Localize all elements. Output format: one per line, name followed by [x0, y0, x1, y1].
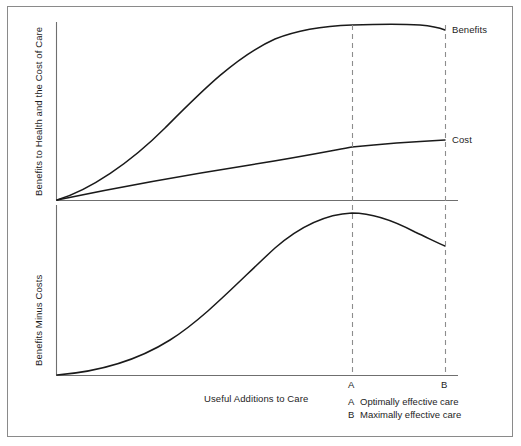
x-axis-title: Useful Additions to Care	[204, 393, 308, 404]
key-text-b: Maximally effective care	[360, 409, 461, 422]
x-tick-label-b: B	[441, 379, 447, 390]
cost-series-label: Cost	[452, 134, 472, 145]
key-text-a: Optimally effective care	[360, 396, 459, 409]
key-row-b: B Maximally effective care	[348, 409, 461, 422]
key-row-a: A Optimally effective care	[348, 396, 461, 409]
top-panel-y-axis-title: Benefits to Health and the Cost of Care	[33, 27, 44, 196]
benefits-minus-costs-curve	[57, 213, 445, 375]
figure-container: Benefits to Health and the Cost of Care …	[0, 0, 521, 446]
chart-key: A Optimally effective care B Maximally e…	[348, 396, 461, 421]
x-tick-label-a: A	[348, 379, 354, 390]
benefits-series-label: Benefits	[452, 24, 487, 35]
benefits-curve	[57, 24, 445, 200]
key-symbol-b: B	[348, 409, 360, 422]
bottom-panel-y-axis-title: Benefits Minus Costs	[33, 275, 44, 366]
key-symbol-a: A	[348, 396, 360, 409]
